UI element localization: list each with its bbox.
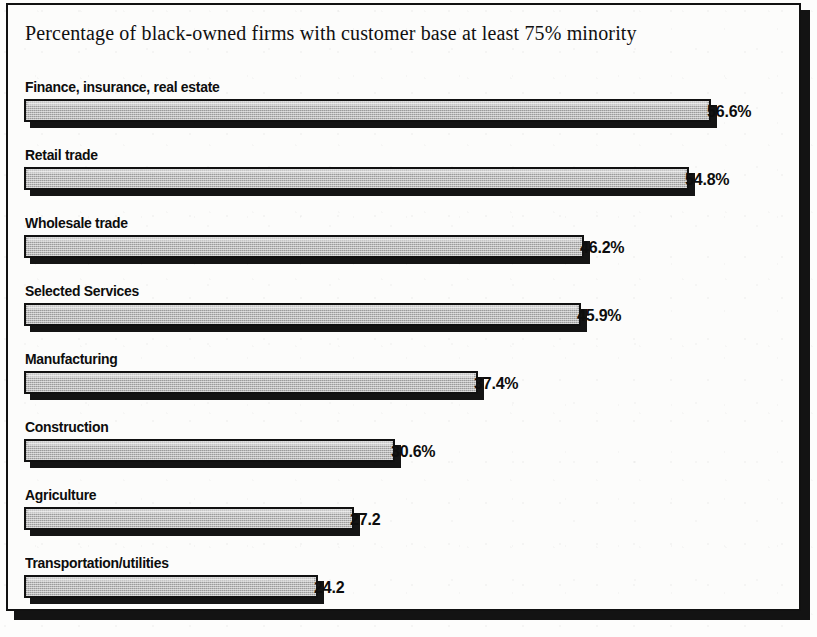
bar-value-label: 30.6% <box>391 443 435 461</box>
bar-fill <box>24 507 354 530</box>
bar <box>24 507 360 537</box>
bar <box>24 439 401 469</box>
bar-fill <box>24 99 711 122</box>
chart-frame: Percentage of black-owned firms with cus… <box>6 3 801 611</box>
bar-category-label: Transportation/utilities <box>25 554 169 571</box>
bar-category-label: Agriculture <box>25 486 96 503</box>
bar-value-label: 54.8% <box>685 171 729 189</box>
bar-group: Selected Services45.9% <box>8 282 803 350</box>
bar-fill <box>24 303 581 326</box>
bar-value-label: 46.2% <box>580 239 624 257</box>
bar-value-label: 37.4% <box>474 375 518 393</box>
bar <box>24 99 717 129</box>
scanned-page: Percentage of black-owned firms with cus… <box>0 0 817 637</box>
bar-chart-plot-area: Finance, insurance, real estate56.6%Reta… <box>8 78 803 622</box>
bar <box>24 575 324 605</box>
bar-fill <box>24 575 318 598</box>
bar-fill <box>24 235 584 258</box>
bar-category-label: Wholesale trade <box>25 214 128 231</box>
bar-group: Transportation/utilities24.2 <box>8 554 803 622</box>
bar-group: Agriculture27.2 <box>8 486 803 554</box>
bar <box>24 167 695 197</box>
bar <box>24 371 484 401</box>
bar <box>24 235 590 265</box>
bar-fill <box>24 371 478 394</box>
bar-group: Manufacturing37.4% <box>8 350 803 418</box>
chart-title: Percentage of black-owned firms with cus… <box>25 21 637 45</box>
bar-category-label: Selected Services <box>25 282 139 299</box>
bar-category-label: Finance, insurance, real estate <box>25 78 220 95</box>
bar <box>24 303 587 333</box>
bar-category-label: Retail trade <box>25 146 98 163</box>
bar-value-label: 27.2 <box>350 511 380 529</box>
bar-category-label: Construction <box>25 418 108 435</box>
bar-group: Wholesale trade46.2% <box>8 214 803 282</box>
bar-category-label: Manufacturing <box>25 350 117 367</box>
bar-value-label: 24.2 <box>314 579 344 597</box>
bar-fill <box>24 439 395 462</box>
bar-value-label: 45.9% <box>577 307 621 325</box>
bar-group: Finance, insurance, real estate56.6% <box>8 78 803 146</box>
bar-fill <box>24 167 689 190</box>
bar-group: Construction30.6% <box>8 418 803 486</box>
bar-group: Retail trade54.8% <box>8 146 803 214</box>
bar-value-label: 56.6% <box>707 103 751 121</box>
